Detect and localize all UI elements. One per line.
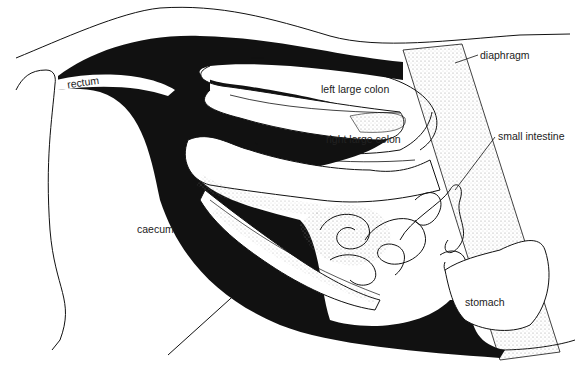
label-diaphragm: diaphragm — [480, 50, 530, 61]
label-stomach: stomach — [465, 297, 505, 308]
label-left-large-colon: left large colon — [321, 84, 389, 95]
hind-outline — [16, 70, 65, 350]
label-right-large-colon: right large colon — [326, 134, 401, 145]
label-caecum: caecum — [137, 224, 174, 235]
label-small-intestine: small intestine — [498, 131, 565, 142]
anatomy-diagram: rectum diaphragm left large colon right … — [0, 0, 581, 376]
